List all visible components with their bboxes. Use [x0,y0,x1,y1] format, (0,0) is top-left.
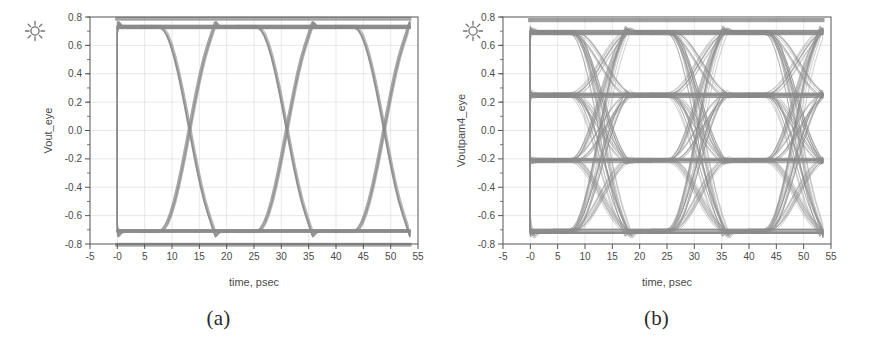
y-tick-label: -0.6 [478,210,496,221]
y-tick-label: 0.2 [68,97,82,108]
panel-a: -5-05101520253035404550550.80.60.40.20.0… [0,0,437,349]
y-tick-label: 0.4 [68,68,82,79]
x-tick-label: 40 [743,251,755,262]
x-tick-label: 25 [248,251,260,262]
x-tick-label: 30 [276,251,288,262]
y-tick-label: 0.4 [481,68,495,79]
x-tick-label: 55 [825,251,837,262]
x-tick-label: 25 [661,251,673,262]
sun-marker-icon [462,20,484,42]
x-axis-label: time, psec [642,276,693,288]
x-tick-label: 10 [579,251,591,262]
panel-b: -5-05101520253035404550550.80.60.40.20.0… [438,0,875,349]
x-tick-label: -5 [86,251,95,262]
y-tick-label: -0.4 [65,182,83,193]
x-tick-label: 15 [194,251,206,262]
eye-traces [530,26,822,238]
y-tick-label: 0.2 [481,97,495,108]
eye-traces [117,21,409,237]
y-tick-label: -0.8 [65,239,83,250]
subcaption-a: (a) [0,306,437,331]
x-tick-label: 5 [142,251,148,262]
y-tick-label: -0.2 [65,153,83,164]
y-tick-label: -0.6 [65,210,83,221]
y-tick-label: -0.4 [478,182,496,193]
y-tick-label: 0.0 [481,125,495,136]
x-tick-label: -0 [113,251,122,262]
x-tick-label: -5 [499,251,508,262]
x-tick-label: -0 [526,251,535,262]
subcaption-b: (b) [438,306,875,331]
x-tick-label: 55 [412,251,424,262]
y-axis-label: Voutpam4_eye [455,94,467,167]
x-tick-label: 50 [385,251,397,262]
axes: -5-05101520253035404550550.80.60.40.20.0… [65,12,424,263]
x-tick-label: 35 [716,251,728,262]
figure-root: -5-05101520253035404550550.80.60.40.20.0… [0,0,875,349]
x-axis-label: time, psec [229,276,280,288]
y-tick-label: 0.6 [68,40,82,51]
x-tick-label: 35 [303,251,315,262]
saturation-rails [528,19,824,22]
y-tick-label: 0.8 [68,12,82,23]
y-tick-label: -0.2 [478,153,496,164]
x-tick-label: 45 [358,251,370,262]
x-tick-label: 15 [607,251,619,262]
eye-diagram-nrz: -5-05101520253035404550550.80.60.40.20.0… [0,0,437,300]
x-tick-label: 20 [221,251,233,262]
y-axis-label: Vout_eye [42,108,54,154]
x-tick-label: 5 [555,251,561,262]
x-tick-label: 30 [689,251,701,262]
x-tick-label: 50 [798,251,810,262]
y-tick-label: -0.8 [478,239,496,250]
eye-diagram-pam4: -5-05101520253035404550550.80.60.40.20.0… [438,0,875,300]
x-tick-label: 40 [330,251,342,262]
y-tick-label: 0.0 [68,125,82,136]
sun-marker-icon [24,20,46,42]
x-tick-label: 10 [166,251,178,262]
x-tick-label: 20 [634,251,646,262]
x-tick-label: 45 [771,251,783,262]
